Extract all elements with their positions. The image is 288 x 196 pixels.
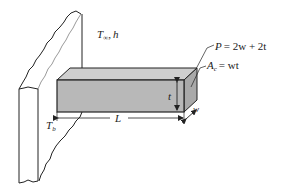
fin — [57, 68, 197, 112]
length-label: L — [114, 112, 121, 124]
perimeter-equation-label: P= 2w + 2t — [214, 40, 266, 52]
fin-top-face — [57, 68, 197, 80]
cross-section-area-label: Ac= wt — [206, 59, 239, 73]
width-label: w — [193, 104, 199, 114]
base-temperature-label: Tb — [46, 119, 56, 133]
fin-diagram: T∞,h P= 2w + 2t Ac= wt t L w Tb — [0, 0, 288, 196]
ambient-conditions-label: T∞,h — [97, 28, 119, 42]
fin-front-face — [57, 80, 184, 112]
wall-front-face — [19, 87, 38, 183]
